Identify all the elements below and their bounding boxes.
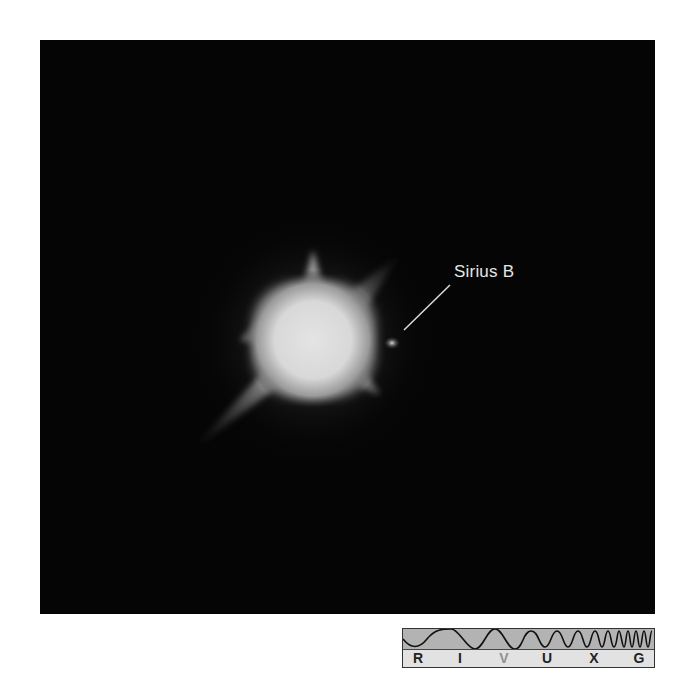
band-v: V [499, 650, 508, 667]
sirius-b-label: Sirius B [454, 262, 514, 282]
wavelength-wave-strip [403, 629, 654, 650]
spectrum-band-indicator: R I V U X G [402, 628, 655, 668]
sirius-b-star [383, 336, 401, 350]
band-r: R [413, 650, 423, 667]
band-i: I [458, 650, 462, 667]
band-x: X [589, 650, 598, 667]
band-labels: R I V U X G [403, 650, 654, 667]
band-u: U [542, 650, 552, 667]
telescope-image: Sirius B [40, 40, 655, 614]
sine-wave-icon [403, 629, 654, 649]
band-g: G [634, 650, 645, 667]
star-glare-graphic [40, 40, 655, 614]
